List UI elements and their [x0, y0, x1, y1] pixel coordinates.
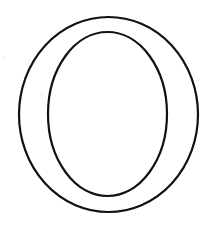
scan-speck [40, 94, 41, 95]
letter-o-figure: O [0, 0, 213, 230]
inner-contour [48, 32, 167, 196]
scan-speck [3, 57, 4, 58]
outer-contour [19, 17, 198, 212]
letter-o-icon [0, 0, 213, 230]
